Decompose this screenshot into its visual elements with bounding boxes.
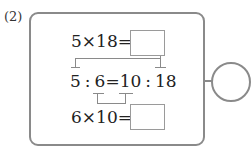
bottom-bracket-under-6 bbox=[93, 93, 104, 94]
problem-label: (2) bbox=[4, 9, 22, 24]
row1-expression: 5×18= bbox=[71, 31, 132, 51]
colon-2: : bbox=[145, 71, 151, 91]
row2-proportion: 5:6=10:18 bbox=[70, 71, 177, 91]
bottom-bracket-right-tick bbox=[125, 93, 126, 103]
row1-answer-box[interactable] bbox=[130, 30, 165, 56]
bottom-bracket-horizontal bbox=[97, 103, 126, 104]
colon-1: : bbox=[85, 71, 91, 91]
top-bracket-right-tick bbox=[160, 56, 161, 67]
result-circle[interactable] bbox=[211, 62, 251, 102]
top-bracket-horizontal bbox=[75, 58, 161, 59]
equals-sign: = bbox=[105, 71, 119, 91]
term-d: 18 bbox=[155, 71, 177, 91]
term-b: 6 bbox=[95, 71, 106, 91]
term-a: 5 bbox=[70, 71, 81, 91]
row3-answer-box[interactable] bbox=[130, 104, 165, 130]
top-bracket-left-tick bbox=[75, 58, 76, 67]
top-bracket-left-stub bbox=[71, 67, 80, 68]
bottom-bracket-left-tick bbox=[97, 93, 98, 103]
row3-expression: 6×10= bbox=[71, 107, 132, 127]
bottom-bracket-under-10 bbox=[119, 93, 133, 94]
top-bracket-right-stub bbox=[155, 67, 166, 68]
term-c: 10 bbox=[120, 71, 142, 91]
